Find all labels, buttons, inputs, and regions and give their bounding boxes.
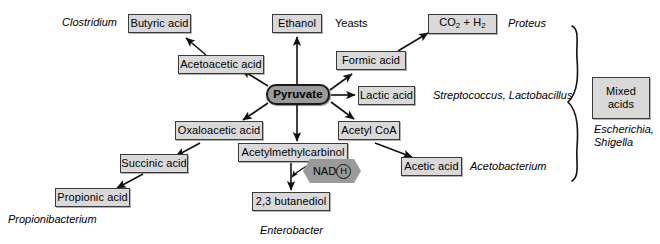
node-ethanol-label: Ethanol	[278, 18, 316, 30]
node-acetoacetic-acid[interactable]: Acetoacetic acid	[178, 55, 264, 74]
organism-acetobacterium-label: Acetobacterium	[470, 160, 546, 172]
nadh-inner: NADH	[313, 164, 351, 179]
node-oxaloacetic-acid-label: Oxaloacetic acid	[178, 125, 260, 137]
organism-clostridium: Clostridium	[62, 16, 117, 29]
organism-streptococcus-lactobacillus: Streptococcus, Lactobacillus	[433, 89, 572, 102]
node-nadh-cofactor[interactable]: NADH	[303, 159, 361, 183]
node-acetylmethylcarbinol-label: Acetylmethylcarbinol	[242, 147, 345, 159]
organism-proteus: Proteus	[508, 17, 546, 30]
co2-prefix: CO	[439, 16, 456, 28]
organism-enterobacter-label: Enterobacter	[260, 224, 323, 236]
node-co2-h2-label: CO2 + H2	[439, 17, 486, 30]
node-oxaloacetic-acid[interactable]: Oxaloacetic acid	[175, 121, 263, 140]
organism-escherichia-label: Escherichia,	[594, 123, 654, 136]
organism-propionibacterium-label: Propionibacterium	[8, 213, 97, 225]
node-co2-h2[interactable]: CO2 + H2	[428, 14, 497, 34]
fermentation-pathway-diagram: Butyric acid Acetoacetic acid Ethanol CO…	[0, 0, 660, 244]
edge-formic-to-co2h2	[398, 33, 428, 51]
nadh-label: NAD	[313, 165, 336, 177]
node-pyruvate-label: Pyruvate	[273, 88, 322, 100]
organism-enterobacter: Enterobacter	[260, 224, 323, 237]
node-lactic-acid-label: Lactic acid	[360, 90, 413, 102]
co2-plus-h: + H	[460, 16, 481, 28]
node-butanediol[interactable]: 2,3 butanediol	[252, 192, 330, 211]
node-butyric-acid[interactable]: Butyric acid	[128, 14, 191, 33]
node-succinic-acid-label: Succinic acid	[121, 158, 187, 170]
node-acetyl-coa[interactable]: Acetyl CoA	[338, 121, 400, 140]
organism-shigella-label: Shigella	[594, 136, 654, 149]
node-succinic-acid[interactable]: Succinic acid	[120, 154, 188, 173]
node-acetic-acid[interactable]: Acetic acid	[401, 157, 462, 176]
node-butyric-acid-label: Butyric acid	[130, 18, 188, 30]
organism-streptococcus-lactobacillus-label: Streptococcus, Lactobacillus	[433, 89, 572, 101]
node-butanediol-label: 2,3 butanediol	[256, 196, 327, 208]
edge-acetoacetic-to-butyric	[186, 38, 206, 55]
organism-escherichia-shigella: Escherichia, Shigella	[594, 123, 654, 148]
node-pyruvate[interactable]: Pyruvate	[266, 84, 330, 105]
node-propionic-acid[interactable]: Propionic acid	[55, 188, 130, 207]
organism-acetobacterium: Acetobacterium	[470, 160, 546, 173]
node-propionic-acid-label: Propionic acid	[57, 192, 128, 204]
node-acetyl-coa-label: Acetyl CoA	[341, 125, 396, 137]
node-mixed-acids-label: Mixed acids	[593, 85, 649, 111]
organism-yeasts-label: Yeasts	[335, 17, 368, 29]
organism-proteus-label: Proteus	[508, 17, 546, 29]
node-formic-acid-label: Formic acid	[342, 55, 400, 67]
edge-pyruvate-to-oxaloacetic	[243, 103, 268, 120]
edge-succinic-to-propionic	[117, 174, 143, 188]
node-acetic-acid-label: Acetic acid	[404, 161, 458, 173]
organism-propionibacterium: Propionibacterium	[8, 213, 97, 226]
h2-subscript: 2	[481, 21, 486, 30]
edge-pyruvate-to-formic	[330, 74, 352, 90]
organism-yeasts: Yeasts	[335, 17, 368, 30]
grouping-brace	[0, 0, 660, 244]
node-lactic-acid[interactable]: Lactic acid	[358, 86, 415, 105]
node-ethanol[interactable]: Ethanol	[272, 14, 322, 33]
arrow-layer	[0, 0, 660, 244]
organism-clostridium-label: Clostridium	[62, 16, 117, 28]
node-formic-acid[interactable]: Formic acid	[336, 51, 406, 70]
edge-acetylcoa-to-acetic	[375, 143, 412, 157]
nadh-circled-h: H	[336, 164, 351, 179]
node-mixed-acids[interactable]: Mixed acids	[592, 77, 650, 119]
edge-pyruvate-to-acetylcoa	[331, 102, 354, 119]
node-acetoacetic-acid-label: Acetoacetic acid	[180, 59, 262, 71]
